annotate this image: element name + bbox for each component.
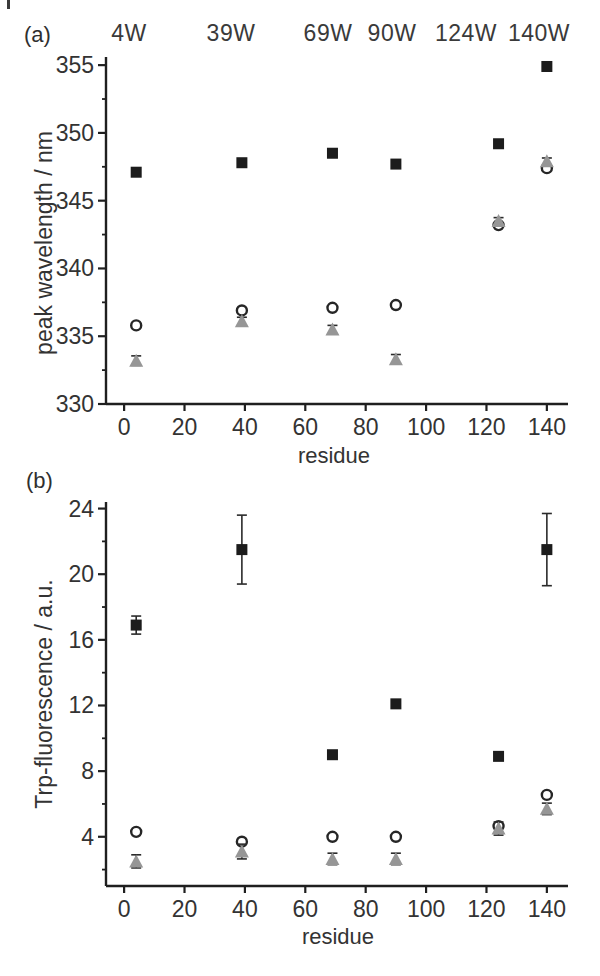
y-tick-label: 335 <box>56 323 94 349</box>
marker-triangle <box>235 845 249 858</box>
panel-a-x-axis-title: residue <box>298 443 370 469</box>
y-tick-label: 330 <box>56 391 94 417</box>
x-tick-label: 80 <box>353 896 379 922</box>
x-tick-label: 0 <box>118 896 131 922</box>
marker-triangle <box>492 214 506 227</box>
marker-square <box>236 157 247 168</box>
marker-square <box>541 61 552 72</box>
x-tick-label: 100 <box>407 896 445 922</box>
marker-open-circle <box>131 320 141 330</box>
marker-square <box>236 544 247 555</box>
x-tick-label: 140 <box>528 414 566 440</box>
x-tick-label: 40 <box>232 896 258 922</box>
marker-triangle <box>129 854 143 867</box>
panel-b-x-axis-title: residue <box>302 924 374 950</box>
y-tick-label: 20 <box>68 561 94 587</box>
y-tick-label: 4 <box>81 824 94 850</box>
x-tick-label: 100 <box>407 414 445 440</box>
x-tick-label: 20 <box>172 414 198 440</box>
marker-open-circle <box>327 303 337 313</box>
marker-open-circle <box>391 300 401 310</box>
panel-a-plot: 330335340345350355020406080100120140 <box>0 0 600 476</box>
marker-square <box>493 138 504 149</box>
x-tick-label: 120 <box>467 896 505 922</box>
marker-triangle <box>325 322 339 335</box>
marker-open-circle <box>327 832 337 842</box>
marker-square <box>131 167 142 178</box>
x-tick-label: 140 <box>528 896 566 922</box>
figure-root: (a) (b) 4W39W69W90W124W140W 330335340345… <box>0 0 600 976</box>
marker-open-circle <box>131 827 141 837</box>
y-tick-label: 16 <box>68 627 94 653</box>
marker-square <box>390 159 401 170</box>
panel-b-y-axis-title: Trp-fluorescence / a.u. <box>31 579 58 808</box>
marker-open-circle <box>542 790 552 800</box>
marker-triangle <box>235 314 249 327</box>
marker-open-circle <box>237 305 247 315</box>
marker-square <box>327 148 338 159</box>
y-tick-label: 340 <box>56 255 94 281</box>
y-tick-label: 24 <box>68 496 94 522</box>
x-tick-label: 0 <box>118 414 131 440</box>
x-tick-label: 60 <box>292 896 318 922</box>
y-tick-label: 355 <box>56 52 94 78</box>
marker-square <box>131 620 142 631</box>
y-tick-label: 345 <box>56 188 94 214</box>
panel-b-plot: 4812162024020406080100120140 <box>0 476 600 976</box>
marker-square <box>390 698 401 709</box>
x-tick-label: 80 <box>353 414 379 440</box>
marker-open-circle <box>391 832 401 842</box>
y-tick-label: 8 <box>81 758 94 784</box>
y-tick-label: 350 <box>56 120 94 146</box>
panel-a-y-axis-title: peak wavelength / nm <box>31 131 58 355</box>
x-tick-label: 40 <box>232 414 258 440</box>
y-tick-label: 12 <box>68 692 94 718</box>
x-tick-label: 60 <box>292 414 318 440</box>
marker-square <box>541 544 552 555</box>
marker-square <box>327 749 338 760</box>
marker-triangle <box>540 154 554 167</box>
marker-square <box>493 751 504 762</box>
x-tick-label: 20 <box>172 896 198 922</box>
x-tick-label: 120 <box>467 414 505 440</box>
